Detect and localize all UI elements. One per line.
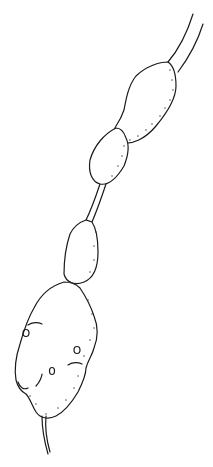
- tail: [42, 416, 48, 454]
- stalk-top: [168, 14, 203, 72]
- illustration: [0, 0, 213, 467]
- segment-3: [64, 220, 98, 284]
- segment-1: [114, 62, 176, 143]
- connector: [86, 184, 100, 220]
- segment-4-large: [15, 282, 97, 418]
